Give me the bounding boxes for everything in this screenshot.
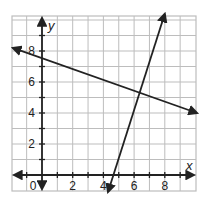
x-tick-label: 4 xyxy=(100,179,107,193)
increasing-line xyxy=(108,14,165,192)
y-tick-label: 2 xyxy=(28,137,35,151)
decreasing-line xyxy=(13,48,197,113)
coordinate-plane: 024682468 x y xyxy=(0,0,202,203)
x-tick-label: 8 xyxy=(161,179,168,193)
plotted-lines xyxy=(13,14,197,192)
y-tick-label: 4 xyxy=(28,106,35,120)
y-tick-label: 6 xyxy=(28,75,35,89)
x-tick-label: 2 xyxy=(69,179,76,193)
x-tick-label: 6 xyxy=(131,179,138,193)
x-axis-label: x xyxy=(185,158,193,173)
x-tick-label: 0 xyxy=(30,179,37,193)
axes xyxy=(14,18,194,189)
